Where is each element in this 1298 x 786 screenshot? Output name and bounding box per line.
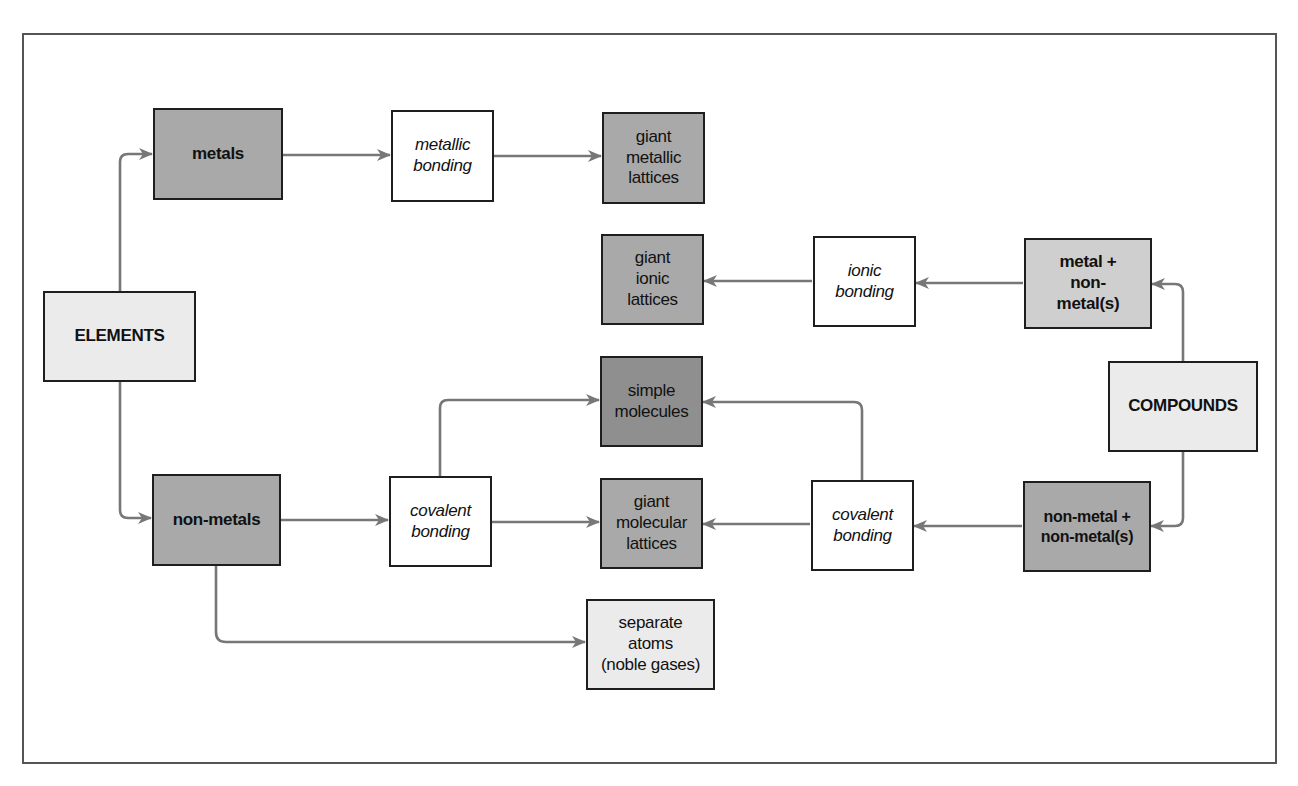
arrow-elements-to-metals — [120, 154, 152, 291]
node-non-metal-non-metals-label: non-metal + non-metal(s) — [1041, 507, 1133, 546]
arrow-elements-to-non-metals — [120, 381, 151, 518]
node-compounds-label: COMPOUNDS — [1128, 396, 1238, 417]
arrow-covalent-bonding-right-to-simple-molecules — [703, 402, 862, 480]
node-ionic-bonding-label: ionic bonding — [835, 261, 893, 302]
node-simple-molecules-label: simple molecules — [615, 381, 689, 422]
node-separate-atoms-label: separate atoms (noble gases) — [601, 613, 700, 675]
arrow-covalent-bonding-to-simple-molecules — [440, 400, 599, 476]
node-non-metals-label: non-metals — [173, 510, 261, 531]
node-compounds: COMPOUNDS — [1108, 361, 1258, 452]
node-elements: ELEMENTS — [43, 291, 196, 382]
node-covalent-bonding-right: covalent bonding — [811, 480, 914, 571]
arrow-non-metals-to-separate-atoms — [216, 566, 585, 642]
node-non-metals: non-metals — [152, 474, 281, 566]
node-giant-molecular-lattices: giant molecular lattices — [600, 478, 703, 569]
node-simple-molecules: simple molecules — [600, 356, 703, 447]
node-metal-non-metals-label: metal + non- metal(s) — [1057, 252, 1120, 314]
node-metal-non-metals: metal + non- metal(s) — [1024, 238, 1152, 329]
node-non-metal-non-metals: non-metal + non-metal(s) — [1023, 481, 1151, 572]
node-covalent-bonding-left: covalent bonding — [389, 476, 492, 567]
node-metallic-bonding: metallic bonding — [391, 110, 494, 202]
node-separate-atoms: separate atoms (noble gases) — [586, 599, 715, 690]
node-giant-metallic-lattices-label: giant metallic lattices — [626, 127, 681, 189]
arrow-compounds-to-non-metal-non-metals — [1151, 451, 1183, 526]
node-covalent-bonding-left-label: covalent bonding — [410, 501, 471, 542]
node-metallic-bonding-label: metallic bonding — [413, 135, 471, 176]
node-metals-label: metals — [192, 144, 244, 165]
node-metals: metals — [153, 108, 283, 200]
arrow-compounds-to-metal-non-metals — [1152, 284, 1183, 361]
node-giant-ionic-lattices: giant ionic lattices — [601, 234, 704, 325]
node-giant-metallic-lattices: giant metallic lattices — [602, 112, 705, 204]
node-elements-label: ELEMENTS — [74, 326, 164, 347]
node-covalent-bonding-right-label: covalent bonding — [832, 505, 893, 546]
node-ionic-bonding: ionic bonding — [813, 236, 916, 327]
node-giant-molecular-lattices-label: giant molecular lattices — [616, 492, 687, 554]
node-giant-ionic-lattices-label: giant ionic lattices — [627, 248, 678, 310]
